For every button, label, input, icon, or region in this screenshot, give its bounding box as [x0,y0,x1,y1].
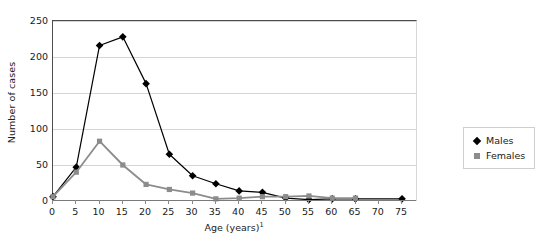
x-tick-label: 20 [139,206,151,217]
legend-label: Males [483,135,513,146]
x-axis-title-label: Age (years) [204,222,259,233]
x-tick-label: 30 [186,206,198,217]
x-tick-mark [145,200,146,204]
x-tick-mark [168,200,169,204]
x-tick-mark [192,200,193,204]
square-marker [190,190,195,195]
square-marker [120,162,125,167]
x-tick-label: 0 [49,206,55,217]
square-marker [143,182,148,187]
diamond-marker [212,180,220,188]
x-tick-label: 35 [209,206,221,217]
x-tick-label: 70 [372,206,384,217]
x-tick-mark [75,200,76,204]
diamond-marker [472,136,480,144]
x-tick-label: 60 [325,206,337,217]
square-marker [306,193,311,198]
series-line [53,37,402,200]
diamond-icon [470,138,483,144]
diamond-marker [142,80,150,88]
x-tick-mark [122,200,123,204]
square-icon [470,153,483,159]
x-tick-mark [215,200,216,204]
square-marker [97,139,102,144]
chart-figure: Number of cases 050100150200250 05101520… [0,0,540,250]
x-tick-mark [355,200,356,204]
x-tick-label: 40 [232,206,244,217]
x-axis-title-superscript: 1 [259,221,263,229]
series-males [49,33,406,203]
legend-item-females: Females [470,148,525,163]
legend-label: Females [483,150,525,161]
x-tick-label: 45 [255,206,267,217]
y-tick-label: 100 [30,123,48,134]
diamond-marker [235,187,243,195]
diamond-marker [119,33,127,41]
series-line [53,141,356,199]
x-tick-label: 5 [72,206,78,217]
square-marker [167,187,172,192]
x-tick-mark [238,200,239,204]
x-tick-mark [331,200,332,204]
square-marker [260,194,265,199]
x-tick-label: 55 [302,206,314,217]
x-tick-label: 65 [348,206,360,217]
square-marker [283,194,288,199]
x-axis-title: Age (years)1 [52,222,416,233]
square-marker [50,194,55,199]
series-layer [53,21,416,201]
x-tick-label: 75 [395,206,407,217]
x-tick-label: 15 [116,206,128,217]
square-marker [474,153,480,159]
y-tick-label: 200 [30,51,48,62]
y-tick-label: 250 [30,15,48,26]
y-tick-label: 50 [36,159,48,170]
x-tick-label: 25 [162,206,174,217]
x-tick-label: 10 [92,206,104,217]
chart-legend: MalesFemales [463,127,535,169]
y-axis-title-label: Number of cases [7,62,18,144]
x-tick-label: 50 [279,206,291,217]
x-tick-mark [378,200,379,204]
x-tick-mark [285,200,286,204]
series-females [50,139,358,202]
legend-item-males: Males [470,133,525,148]
x-tick-mark [52,200,53,204]
square-marker [74,170,79,175]
diamond-marker [96,42,104,50]
x-tick-mark [401,200,402,204]
plot-area [52,20,417,201]
x-tick-mark [308,200,309,204]
x-tick-mark [261,200,262,204]
y-tick-label: 150 [30,87,48,98]
x-tick-mark [99,200,100,204]
